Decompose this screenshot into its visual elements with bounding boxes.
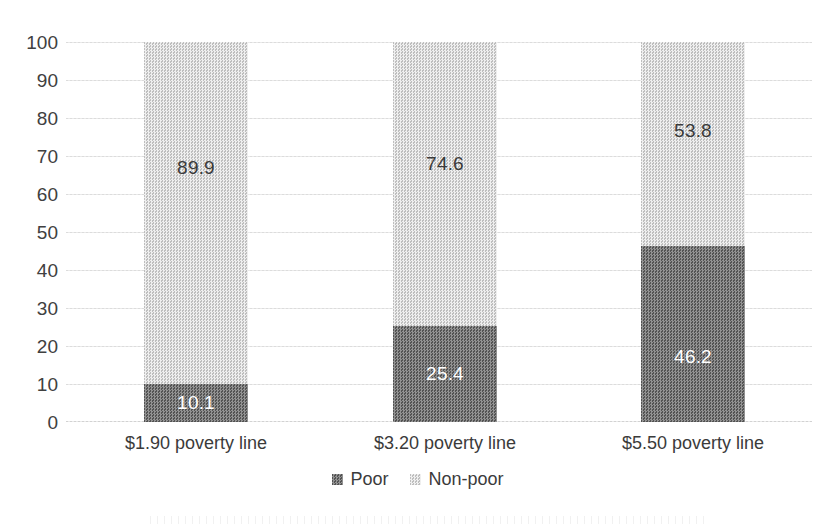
legend-label-non-poor: Non-poor [428,470,503,488]
bar-segment-poor-3[interactable]: 46.2 [641,246,745,422]
bar-stack-1: 10.1 89.9 [144,42,248,422]
bar-segment-poor-2[interactable]: 25.4 [393,326,497,423]
bar-group-2[interactable]: 25.4 74.6 [393,42,497,422]
y-tick-40: 40 [0,261,58,280]
y-tick-30: 30 [0,299,58,318]
dark-swatch-icon [332,474,343,485]
y-tick-10: 10 [0,375,58,394]
y-tick-20: 20 [0,337,58,356]
y-tick-90: 90 [0,71,58,90]
y-tick-60: 60 [0,185,58,204]
bar-label-poor-3: 46.2 [674,347,712,366]
bar-label-poor-1: 10.1 [177,393,215,412]
stacked-bar-chart: 100 90 80 70 60 50 40 30 20 10 0 10.1 [0,0,836,530]
y-tick-50: 50 [0,223,58,242]
bar-group-3[interactable]: 46.2 53.8 [641,42,745,422]
bar-segment-poor-1[interactable]: 10.1 [144,384,248,422]
light-swatch-icon [410,474,421,485]
bar-label-poor-2: 25.4 [426,364,464,383]
y-tick-0: 0 [0,413,58,432]
bar-group-1[interactable]: 10.1 89.9 [144,42,248,422]
y-tick-100: 100 [0,33,58,52]
bar-label-nonpoor-1: 89.9 [177,158,215,177]
bar-segment-nonpoor-1[interactable]: 89.9 [144,42,248,384]
bar-label-nonpoor-2: 74.6 [426,154,464,173]
bar-label-nonpoor-3: 53.8 [674,121,712,140]
y-tick-70: 70 [0,147,58,166]
x-tick-1: $1.90 poverty line [76,432,316,454]
legend-item-non-poor[interactable]: Non-poor [410,470,503,488]
bar-stack-2: 25.4 74.6 [393,42,497,422]
legend-label-poor: Poor [350,470,388,488]
scan-artifact [150,516,710,524]
y-tick-80: 80 [0,109,58,128]
bar-stack-3: 46.2 53.8 [641,42,745,422]
x-axis: $1.90 poverty line $3.20 poverty line $5… [66,432,812,462]
x-tick-3: $5.50 poverty line [573,432,813,454]
plot-area: 10.1 89.9 25.4 74.6 46.2 [66,42,812,422]
bar-segment-nonpoor-3[interactable]: 53.8 [641,42,745,246]
bar-segment-nonpoor-2[interactable]: 74.6 [393,42,497,326]
y-axis: 100 90 80 70 60 50 40 30 20 10 0 [0,42,58,422]
legend-item-poor[interactable]: Poor [332,470,388,488]
chart-legend: Poor Non-poor [0,470,836,488]
x-tick-2: $3.20 poverty line [325,432,565,454]
